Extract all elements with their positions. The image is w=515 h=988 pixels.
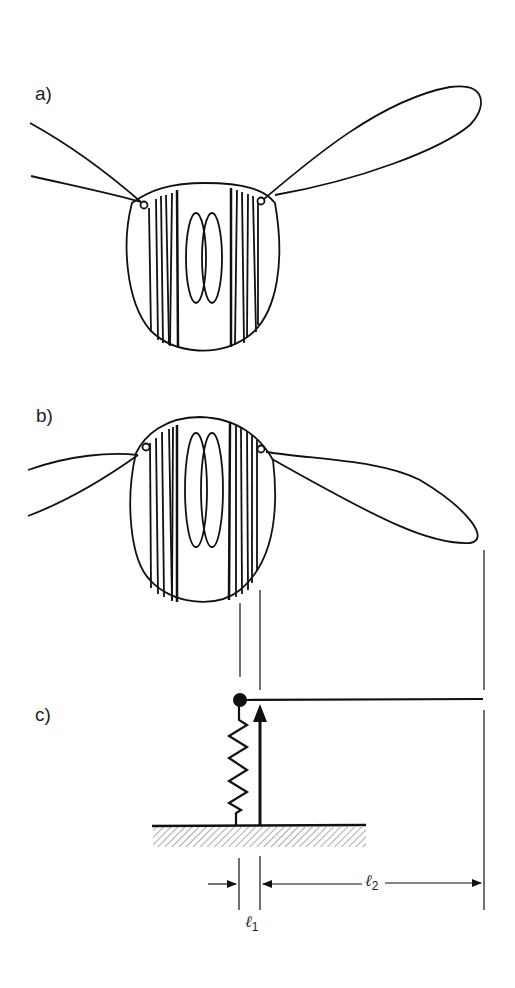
spring <box>229 706 247 825</box>
panel-label-c: c) <box>35 704 51 726</box>
panel-c-lever-model <box>152 693 483 847</box>
panel-label-b: b) <box>36 405 53 427</box>
pivot-joint <box>233 693 247 707</box>
force-arrow-head <box>253 704 267 722</box>
dimension-label-l2: ℓ2 <box>365 871 378 893</box>
ground-hatch <box>153 827 366 847</box>
panel-b-thorax <box>28 417 478 602</box>
panel-a-thorax <box>30 86 481 350</box>
diagram-canvas <box>0 0 515 988</box>
dimension-label-l1: ℓ1 <box>245 912 258 934</box>
dimension-markers <box>208 856 481 910</box>
reference-lines <box>240 550 484 910</box>
lever-beam <box>244 699 483 700</box>
panel-label-a: a) <box>35 83 52 105</box>
ground-line <box>152 825 366 826</box>
